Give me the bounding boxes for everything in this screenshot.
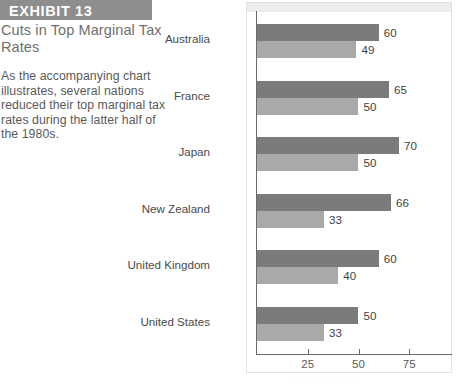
category-label: United States <box>140 315 210 328</box>
bar-value-label: 40 <box>343 269 356 282</box>
category-label: Australia <box>165 32 210 45</box>
exhibit-banner: EXHIBIT 13 <box>0 0 152 20</box>
x-axis-tick <box>308 349 309 355</box>
category-label: New Zealand <box>142 202 210 215</box>
bar-value-label: 50 <box>364 309 377 322</box>
exhibit-banner-label: EXHIBIT 13 <box>9 3 92 19</box>
chart-panel-top-band <box>247 3 451 12</box>
x-axis-tick-label: 75 <box>403 358 416 370</box>
x-axis-tick <box>359 349 360 355</box>
bar-value-label: 50 <box>364 100 377 113</box>
category-label: United Kingdom <box>128 258 211 271</box>
bar-before <box>257 81 389 98</box>
bar-value-label: 49 <box>361 43 374 56</box>
bar-value-label: 66 <box>396 196 409 209</box>
bar-value-label: 33 <box>329 213 342 226</box>
x-axis-line <box>256 354 452 355</box>
x-axis-tick-label: 25 <box>301 358 314 370</box>
category-label: Japan <box>178 145 210 158</box>
exhibit-body-text: As the accompanying chart illustrates, s… <box>1 69 175 142</box>
exhibit-title: Cuts in Top Marginal Tax Rates <box>1 22 173 56</box>
x-axis-tick-label: 50 <box>352 358 365 370</box>
bar-before <box>257 24 379 41</box>
bar-value-label: 50 <box>364 156 377 169</box>
bar-after <box>257 154 358 171</box>
exhibit-text-column: EXHIBIT 13 Cuts in Top Marginal Tax Rate… <box>0 0 178 390</box>
bar-before <box>257 250 379 267</box>
bar-after <box>257 211 324 228</box>
bar-after <box>257 324 324 341</box>
bar-after <box>257 98 358 115</box>
bar-value-label: 65 <box>394 83 407 96</box>
bar-after <box>257 267 338 284</box>
category-label: France <box>174 89 210 102</box>
bar-before <box>257 137 399 154</box>
y-axis-line <box>256 11 257 355</box>
bar-value-label: 60 <box>384 252 397 265</box>
bar-after <box>257 41 356 58</box>
legend-strip: ······ ······ <box>288 377 418 386</box>
bar-value-label: 33 <box>329 326 342 339</box>
bar-before <box>257 194 391 211</box>
bar-value-label: 60 <box>384 26 397 39</box>
x-axis-tick <box>409 349 410 355</box>
bar-before <box>257 307 358 324</box>
bar-value-label: 70 <box>404 139 417 152</box>
